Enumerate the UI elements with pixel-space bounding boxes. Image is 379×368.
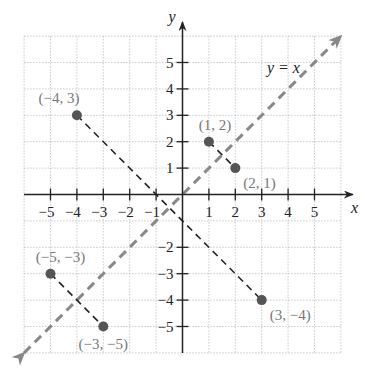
x-tick-label: 2 bbox=[232, 204, 240, 220]
y-tick-label: −4 bbox=[158, 292, 174, 308]
x-tick-label: 5 bbox=[311, 204, 319, 220]
y-tick-label: 2 bbox=[166, 134, 174, 150]
equation-label: y = x bbox=[265, 59, 300, 77]
data-point bbox=[72, 110, 82, 120]
point-label: (−3, −5) bbox=[79, 336, 128, 353]
y-axis-label: y bbox=[167, 8, 177, 26]
x-tick-label: −3 bbox=[91, 204, 107, 220]
point-label: (−4, 3) bbox=[38, 90, 79, 107]
data-point bbox=[98, 322, 108, 332]
point-label: (1, 2) bbox=[199, 117, 232, 134]
data-point bbox=[230, 163, 240, 173]
point-label: (−5, −3) bbox=[36, 249, 85, 266]
y-tick-label: −3 bbox=[158, 266, 174, 282]
y-tick-label: 4 bbox=[166, 81, 174, 97]
y-tick-label: −2 bbox=[158, 239, 174, 255]
x-tick-label: 3 bbox=[258, 204, 266, 220]
x-axis-label: x bbox=[350, 199, 358, 216]
point-label: (3, −4) bbox=[270, 307, 311, 324]
y-tick-label: 5 bbox=[166, 55, 174, 71]
data-point bbox=[257, 295, 267, 305]
data-point bbox=[204, 137, 214, 147]
x-tick-label: −4 bbox=[65, 204, 81, 220]
x-tick-label: −5 bbox=[39, 204, 55, 220]
x-tick-label: −1 bbox=[144, 204, 160, 220]
coordinate-plane: xy−5−4−3−2−11234554321−2−3−4−5(−4, 3)(3,… bbox=[0, 0, 379, 368]
y-tick-label: −5 bbox=[158, 319, 174, 335]
y-tick-label: 1 bbox=[166, 160, 174, 176]
x-tick-label: −2 bbox=[118, 204, 134, 220]
y-tick-label: 3 bbox=[166, 107, 174, 123]
data-point bbox=[46, 269, 56, 279]
point-label: (2, 1) bbox=[243, 175, 275, 192]
x-tick-label: 4 bbox=[284, 204, 292, 220]
x-tick-label: 1 bbox=[205, 204, 213, 220]
